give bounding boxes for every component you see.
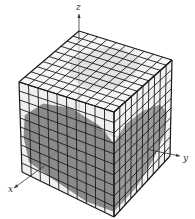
- z-axis-arrow-icon: [77, 14, 80, 18]
- y-axis-arrow-icon: [176, 154, 180, 157]
- x-axis-arrow-icon: [14, 184, 18, 188]
- grid-cube-figure: x y z: [0, 0, 195, 219]
- x-axis-label: x: [8, 184, 13, 194]
- z-axis-label: z: [75, 2, 81, 12]
- y-axis-label: y: [182, 153, 189, 163]
